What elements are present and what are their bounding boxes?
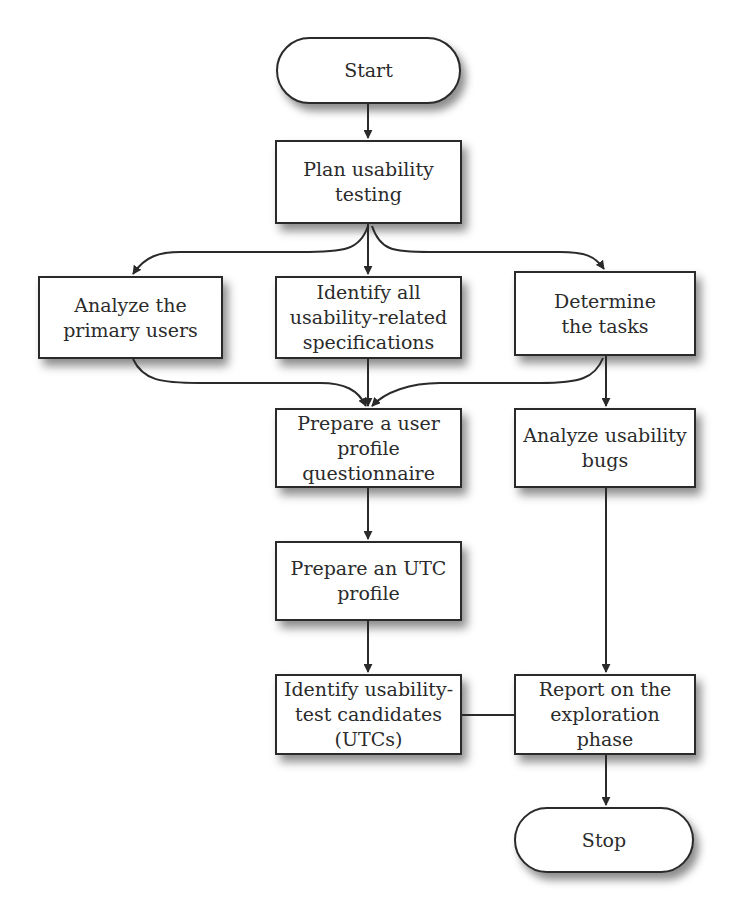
plan-usability-testing-label: Plan usability testing: [303, 157, 434, 207]
identify-specifications-box: Identify all usability-related specifica…: [275, 276, 462, 359]
prepare-questionnaire-label: Prepare a user profile questionnaire: [297, 411, 440, 486]
edge-plan-determine-tasks: [372, 226, 604, 269]
determine-tasks-box: Determine the tasks: [514, 271, 696, 356]
edge-analyze-users-questionnaire: [133, 359, 366, 406]
flowchart-canvas: Start Plan usability testing Analyze the…: [0, 0, 736, 915]
prepare-utc-profile-label: Prepare an UTC profile: [291, 556, 447, 606]
start-terminal: Start: [276, 37, 461, 104]
stop-terminal: Stop: [514, 807, 694, 873]
start-label: Start: [344, 58, 393, 83]
analyze-primary-users-box: Analyze the primary users: [38, 276, 223, 359]
report-exploration-label: Report on the exploration phase: [522, 677, 688, 752]
plan-usability-testing-box: Plan usability testing: [275, 140, 462, 224]
edge-determine-questionnaire: [372, 358, 603, 406]
identify-specifications-label: Identify all usability-related specifica…: [290, 280, 447, 355]
prepare-utc-profile-box: Prepare an UTC profile: [275, 541, 462, 621]
analyze-primary-users-label: Analyze the primary users: [63, 293, 198, 343]
analyze-usability-bugs-label: Analyze usability bugs: [523, 423, 686, 473]
identify-utcs-box: Identify usability- test candidates (UTC…: [275, 674, 462, 755]
analyze-usability-bugs-box: Analyze usability bugs: [514, 408, 696, 488]
determine-tasks-label: Determine the tasks: [554, 289, 656, 339]
identify-utcs-label: Identify usability- test candidates (UTC…: [284, 677, 453, 752]
prepare-questionnaire-box: Prepare a user profile questionnaire: [275, 408, 462, 488]
report-exploration-box: Report on the exploration phase: [514, 674, 696, 755]
stop-label: Stop: [582, 828, 626, 853]
edge-plan-analyze-users: [133, 226, 368, 274]
